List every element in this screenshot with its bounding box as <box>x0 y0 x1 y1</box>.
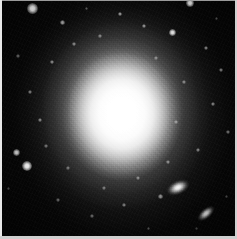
companion-galaxy-upper <box>163 175 193 199</box>
foreground-star <box>219 68 223 72</box>
foreground-star <box>56 198 60 202</box>
foreground-star <box>154 56 158 60</box>
detector-noise-texture <box>2 1 235 236</box>
foreground-star <box>38 118 42 122</box>
foreground-star <box>211 102 215 106</box>
astronomy-image-frame <box>0 0 237 239</box>
foreground-star <box>215 17 218 20</box>
foreground-star <box>60 20 65 25</box>
foreground-star <box>147 227 150 230</box>
foreground-star <box>169 29 176 36</box>
foreground-star <box>118 12 122 16</box>
galaxy-saturated-core <box>62 47 182 181</box>
foreground-star <box>98 34 102 38</box>
foreground-star <box>44 144 48 148</box>
foreground-star <box>142 24 146 28</box>
companion-galaxy-lower <box>194 202 218 225</box>
foreground-star <box>72 42 76 46</box>
foreground-star <box>90 214 94 218</box>
frame-border-bottom <box>0 236 237 239</box>
foreground-star <box>182 80 186 84</box>
detector-grain-texture <box>2 1 235 236</box>
galaxy-outer-halo <box>2 1 235 236</box>
foreground-star <box>186 1 194 7</box>
foreground-star <box>204 46 208 50</box>
galaxy-mid-envelope <box>16 5 224 225</box>
foreground-star <box>196 148 200 152</box>
foreground-star <box>225 195 228 198</box>
foreground-star <box>195 227 198 230</box>
foreground-star <box>102 186 106 190</box>
foreground-star <box>166 160 170 164</box>
foreground-star <box>28 90 32 94</box>
foreground-star <box>122 203 126 207</box>
foreground-star <box>174 120 178 124</box>
frame-border-right <box>235 0 237 239</box>
foreground-star <box>226 130 230 134</box>
foreground-star <box>13 149 20 156</box>
foreground-star <box>85 7 88 10</box>
foreground-star <box>7 187 10 190</box>
foreground-star <box>66 166 70 170</box>
foreground-star <box>22 161 32 171</box>
foreground-star <box>16 54 20 58</box>
foreground-star <box>27 3 38 14</box>
frame-border-top <box>0 0 237 1</box>
foreground-star <box>158 194 163 199</box>
foreground-star <box>50 60 54 64</box>
frame-border-left <box>0 0 2 239</box>
sky-plate <box>2 1 235 236</box>
corner-vignette <box>2 1 235 236</box>
foreground-star <box>136 176 140 180</box>
